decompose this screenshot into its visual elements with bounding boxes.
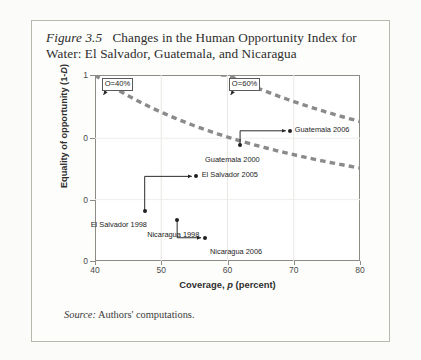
figure-number: Figure 3.5 xyxy=(46,30,102,45)
y-tick-label: 1 xyxy=(72,70,88,80)
data-point-label: Nicaragua 1998 xyxy=(147,230,199,239)
data-point-label: Guatemala 2000 xyxy=(205,155,260,164)
iso-label-box: O=60% xyxy=(229,78,261,91)
y-axis-title: Equality of opportunity (1-D) xyxy=(59,46,69,206)
data-point xyxy=(238,143,242,147)
data-point-label: El Salvador 1998 xyxy=(91,220,147,229)
grid-lines xyxy=(95,75,360,261)
data-point-label: Guatemala 2006 xyxy=(295,125,350,134)
source-note: Source: Authors' computations. xyxy=(64,309,195,320)
x-tick-label: 70 xyxy=(281,265,307,275)
data-point xyxy=(143,209,147,213)
y-tick-label: 0 xyxy=(72,256,88,266)
data-point-label: Nicaragua 2006 xyxy=(210,247,262,256)
data-point-label: El Salvador 2005 xyxy=(202,170,258,179)
x-tick-label: 60 xyxy=(215,265,241,275)
iso-label-box: O=40% xyxy=(102,78,134,91)
x-tick-label: 80 xyxy=(347,265,373,275)
y-tick-label: 0 xyxy=(72,133,88,143)
y-tick-mark xyxy=(90,261,95,262)
source-label: Source: xyxy=(64,309,96,320)
figure-caption: Figure 3.5 Changes in the Human Opportun… xyxy=(46,30,378,62)
data-point xyxy=(203,236,207,240)
figure-card: Figure 3.5 Changes in the Human Opportun… xyxy=(31,20,390,342)
data-point xyxy=(288,129,292,133)
data-point xyxy=(175,218,179,222)
iso-opportunity-curves xyxy=(95,75,360,261)
chart-plot-area: Equality of opportunity (1-D) 4050607080… xyxy=(46,69,378,301)
y-tick-label: 0 xyxy=(72,195,88,205)
x-axis-title: Coverage, p (percent) xyxy=(95,279,360,290)
x-tick-label: 50 xyxy=(148,265,174,275)
x-tick-label: 40 xyxy=(82,265,108,275)
source-text: Authors' computations. xyxy=(98,309,195,320)
change-arrow xyxy=(145,176,192,210)
